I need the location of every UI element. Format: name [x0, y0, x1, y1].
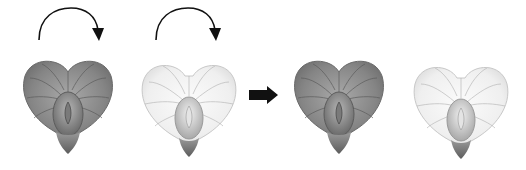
curved-arrow-2	[153, 6, 223, 46]
flower-illustration-light-2	[413, 60, 509, 160]
flower-illustration-dark-1	[22, 56, 114, 156]
flower-illustration-dark-2	[293, 56, 385, 156]
flower-illustration-light-1	[141, 58, 237, 158]
clockwise-rotation-arrow-icon	[153, 6, 223, 46]
flower-petal-icon	[293, 56, 385, 156]
right-arrow-icon	[249, 86, 279, 104]
right-arrow	[249, 86, 279, 104]
clockwise-rotation-arrow-icon	[36, 6, 106, 46]
curved-arrow-1	[36, 6, 106, 46]
flower-petal-icon	[413, 60, 509, 160]
flower-petal-icon	[141, 58, 237, 158]
flower-petal-icon	[22, 56, 114, 156]
